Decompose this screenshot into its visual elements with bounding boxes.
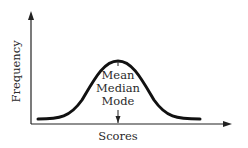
x-axis-label: Scores	[88, 130, 148, 143]
x-axis-arrow-icon	[223, 121, 232, 127]
down-arrow-icon	[116, 116, 121, 123]
mode-label: Mode	[88, 95, 148, 108]
y-axis-label: Frequency	[10, 43, 23, 103]
y-axis-arrow-icon	[28, 11, 34, 20]
central-tendency-labels: Mean Median Mode	[88, 69, 148, 108]
normal-distribution-diagram: Frequency Scores Mean Median Mode	[0, 0, 248, 148]
